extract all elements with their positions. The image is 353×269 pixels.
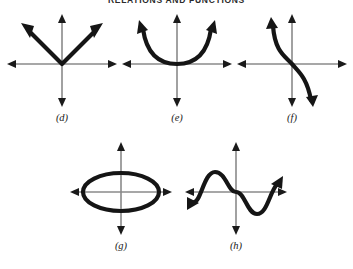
- x-axis-left-arrowhead: [122, 60, 131, 68]
- y-axis-down-arrowhead: [117, 226, 125, 235]
- x-axis-left-arrowhead: [7, 60, 16, 68]
- curve-arrowhead-upper-left: [266, 17, 278, 29]
- x-axis-right-arrowhead: [223, 60, 232, 68]
- y-axis-down-arrowhead: [232, 226, 240, 235]
- graph-svg-g: [62, 140, 180, 236]
- graph-panel-h: (h): [177, 140, 295, 252]
- graph-label-d: (d): [3, 112, 121, 124]
- curve-arrowhead-upper-right: [206, 20, 217, 34]
- x-axis-right-arrowhead: [108, 60, 117, 68]
- graph-panel-f: (f): [233, 12, 351, 124]
- x-axis-left-arrowhead: [70, 188, 79, 196]
- x-axis-right-arrowhead: [278, 188, 287, 196]
- coordinate-axes-d: [7, 14, 117, 107]
- curve-arrowhead-lower-right: [306, 95, 318, 107]
- graph-svg-e: [118, 12, 236, 108]
- graph-panel-e: (e): [118, 12, 236, 124]
- y-axis-up-arrowhead: [173, 14, 181, 23]
- y-axis-down-arrowhead: [58, 98, 66, 107]
- graph-label-e: (e): [118, 112, 236, 124]
- page-title: RELATIONS AND FUNCTIONS: [0, 0, 353, 3]
- y-axis-up-arrowhead: [288, 14, 296, 23]
- x-axis-left-arrowhead: [237, 60, 246, 68]
- y-axis-up-arrowhead: [58, 14, 66, 23]
- x-axis-left-arrowhead: [185, 188, 194, 196]
- curve-arrowhead-upper-left: [137, 20, 148, 34]
- graph-label-f: (f): [233, 112, 351, 124]
- graph-label-g: (g): [62, 240, 180, 252]
- y-axis-down-arrowhead: [288, 98, 296, 107]
- graph-svg-h: [177, 140, 295, 236]
- y-axis-down-arrowhead: [173, 98, 181, 107]
- x-axis-right-arrowhead: [338, 60, 347, 68]
- x-axis-right-arrowhead: [163, 188, 172, 196]
- graph-svg-f: [233, 12, 351, 108]
- y-axis-up-arrowhead: [232, 142, 240, 151]
- graph-label-h: (h): [177, 240, 295, 252]
- curve-h-sine-wave: [187, 172, 283, 214]
- graph-svg-d: [3, 12, 121, 108]
- graph-panel-g: (g): [62, 140, 180, 252]
- y-axis-up-arrowhead: [117, 142, 125, 151]
- graph-panel-d: (d): [3, 12, 121, 124]
- coordinate-axes-f: [237, 14, 347, 107]
- worksheet-page: RELATIONS AND FUNCTIONS (d): [0, 0, 353, 269]
